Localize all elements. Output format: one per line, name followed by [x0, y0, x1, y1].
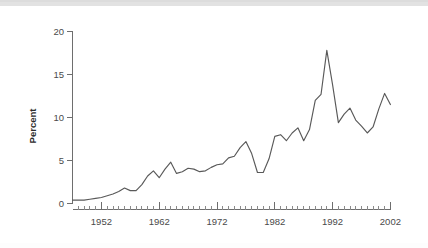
x-tick-label-1972: 1972: [206, 216, 227, 227]
screenshot-root: Percent 20 15 10 5 0: [0, 0, 428, 248]
y-tick-label-10: 10: [53, 112, 64, 123]
bottom-white-strip: [0, 243, 428, 248]
x-tick-label-1992: 1992: [322, 216, 343, 227]
x-tick-label-1952: 1952: [91, 216, 112, 227]
x-tick-label-2002: 2002: [380, 216, 401, 227]
top-gray-strip-highlight: [0, 0, 428, 2]
y-tick-label-0: 0: [59, 198, 64, 209]
y-tick-label-20: 20: [53, 26, 64, 37]
x-tick-label-1962: 1962: [149, 216, 170, 227]
line-chart: Percent 20 15 10 5 0: [0, 6, 428, 242]
x-tick-marks: [78, 202, 390, 210]
y-tick-label-5: 5: [59, 155, 64, 166]
y-tick-label-15: 15: [53, 69, 64, 80]
data-series-line: [73, 50, 391, 200]
chart-figure: Percent 20 15 10 5 0: [0, 6, 428, 242]
y-axis-label: Percent: [27, 108, 38, 144]
x-tick-label-1982: 1982: [264, 216, 285, 227]
